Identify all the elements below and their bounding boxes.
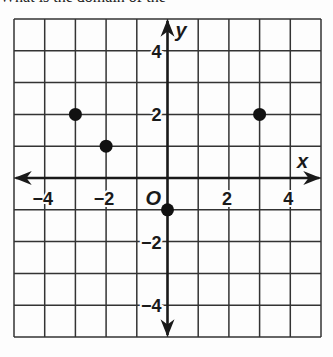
x-tick-label: −2 [94,189,115,209]
x-tick-label: 2 [222,189,232,209]
x-tick-label: 4 [283,189,293,209]
data-point [69,108,82,121]
coordinate-plane: −4−22442−2−4yxO [0,0,333,357]
data-point [100,140,113,153]
y-tick-label: −4 [141,296,162,316]
data-point [253,108,266,121]
x-axis-label: x [296,150,309,172]
data-point [161,203,174,216]
x-tick-label: −4 [32,189,53,209]
y-tick-label: 2 [151,105,161,125]
y-tick-label: 4 [151,42,161,62]
y-axis-label: y [175,19,188,41]
y-tick-label: −2 [141,233,162,253]
origin-label: O [146,187,162,209]
